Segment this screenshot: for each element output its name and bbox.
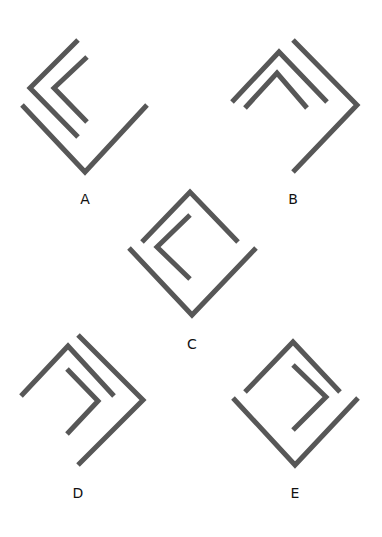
- figure-a-bottom-v: [22, 105, 147, 172]
- figure-d-outer-right-chevron: [78, 335, 143, 465]
- figure-e[interactable]: E: [233, 342, 358, 501]
- figure-d-inner-right-chevron: [67, 369, 98, 434]
- figure-c-bottom-v: [129, 248, 256, 315]
- figure-a-inner-left-chevron: [54, 57, 87, 122]
- puzzle-diagram: A B C D E: [0, 0, 382, 537]
- figure-c-label: C: [187, 336, 197, 352]
- figure-e-bottom-v: [233, 398, 358, 465]
- figure-a[interactable]: A: [22, 40, 147, 207]
- figure-b[interactable]: B: [232, 40, 357, 207]
- figure-c[interactable]: C: [129, 192, 256, 352]
- figure-d[interactable]: D: [21, 335, 143, 501]
- figure-d-label: D: [73, 485, 84, 501]
- figure-e-label: E: [291, 485, 300, 501]
- figure-a-label: A: [80, 191, 90, 207]
- figure-b-label: B: [288, 191, 298, 207]
